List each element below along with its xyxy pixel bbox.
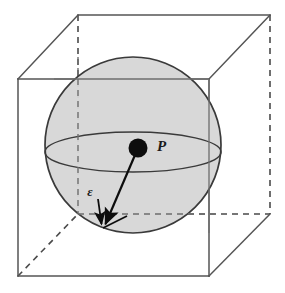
- cube-edge-bottom-right-diagonal: [209, 214, 270, 276]
- sphere-in-cube-diagram: P ε: [0, 0, 285, 293]
- cube-edge-bottom-left-diagonal: [18, 214, 78, 276]
- point-p-dot: [129, 139, 148, 158]
- point-p-label: P: [157, 138, 167, 154]
- epsilon-label: ε: [87, 184, 93, 199]
- cube-edge-top-left-diagonal: [18, 15, 78, 79]
- cube-edge-top-right-diagonal: [209, 15, 270, 79]
- figure-container: P ε: [0, 0, 285, 293]
